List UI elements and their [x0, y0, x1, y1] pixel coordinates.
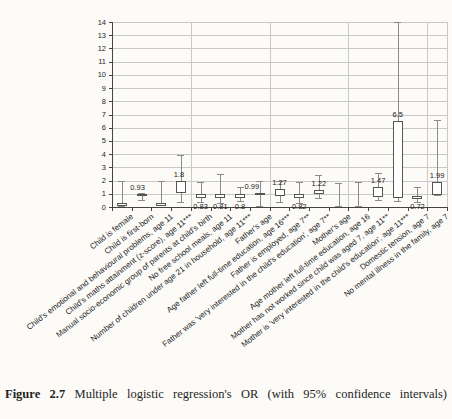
whisker-cap-bottom — [315, 198, 322, 199]
or-box — [412, 196, 422, 200]
or-box — [393, 121, 403, 198]
whisker-cap-top — [335, 183, 342, 184]
y-axis-tick-label: 9 — [92, 85, 106, 92]
y-axis-tick-label: 12 — [92, 45, 106, 52]
whisker-cap-top — [434, 120, 441, 121]
y-axis-tick-label: 11 — [92, 58, 106, 65]
or-box — [215, 194, 225, 198]
or-box — [137, 194, 147, 197]
or-value-label: 0.8 — [227, 203, 253, 211]
whisker-cap-top — [296, 182, 303, 183]
whisker — [339, 183, 340, 206]
x-axis-tick — [368, 208, 369, 211]
or-box — [196, 194, 206, 198]
x-axis-tick — [447, 208, 448, 211]
whisker — [122, 181, 123, 206]
whisker-cap-top — [118, 181, 125, 182]
or-value-label: 6.5 — [385, 111, 411, 119]
y-axis-tick-label: 14 — [92, 19, 106, 26]
whisker-cap-bottom — [335, 206, 342, 207]
or-value-label: 1.99 — [424, 172, 450, 180]
whisker-cap-bottom — [394, 201, 401, 202]
whisker — [220, 174, 221, 203]
or-box — [117, 203, 127, 206]
x-axis-tick — [112, 208, 113, 211]
y-axis-tick-label: 4 — [92, 151, 106, 158]
figure-2-7: 01234567891011121314Child is female0.93C… — [0, 0, 452, 419]
whisker-cap-top — [355, 182, 362, 183]
or-box — [314, 190, 324, 195]
figure-caption-label: Figure 2.7 — [5, 387, 65, 401]
gridline-v — [348, 22, 349, 207]
x-axis-tick — [151, 208, 152, 211]
or-box — [294, 194, 304, 198]
or-box — [255, 193, 265, 195]
figure-caption-text: Multiple logistic regression's OR (with … — [75, 387, 448, 401]
gridline-v — [191, 22, 192, 207]
or-value-label: 1.8 — [166, 171, 192, 179]
whisker-cap-top — [158, 181, 165, 182]
or-value-label: 0.99 — [239, 183, 265, 191]
whisker-cap-bottom — [434, 195, 441, 196]
y-axis-tick-label: 13 — [92, 32, 106, 39]
y-axis-tick-label: 10 — [92, 71, 106, 78]
whisker — [181, 155, 182, 202]
figure-caption: Figure 2.7 Multiple logistic regression'… — [5, 387, 447, 402]
plot-area: 01234567891011121314Child is female0.93C… — [0, 0, 452, 419]
whisker-cap-bottom — [256, 206, 263, 207]
x-axis-tick — [171, 208, 172, 211]
or-value-label: 1.27 — [267, 179, 293, 187]
x-axis-line — [112, 207, 448, 208]
or-value-label: 0.93 — [125, 184, 151, 192]
y-axis-tick-label: 8 — [92, 98, 106, 105]
or-box — [176, 181, 186, 194]
or-box — [432, 182, 442, 195]
whisker-cap-top — [394, 22, 401, 23]
x-axis-tick — [270, 208, 271, 211]
whisker-cap-bottom — [276, 202, 283, 203]
whisker — [417, 187, 418, 203]
or-box — [275, 189, 285, 196]
x-axis-tick — [348, 208, 349, 211]
whisker-cap-bottom — [177, 202, 184, 203]
whisker — [161, 181, 162, 205]
whisker-cap-bottom — [375, 200, 382, 201]
whisker-cap-top — [177, 155, 184, 156]
y-axis-line — [112, 22, 113, 208]
or-box — [235, 194, 245, 198]
y-axis-tick-label: 1 — [92, 190, 106, 197]
x-axis-tick — [388, 208, 389, 211]
or-value-label: 0.82 — [286, 203, 312, 211]
or-box — [156, 203, 166, 206]
y-axis-tick-label: 3 — [92, 164, 106, 171]
whisker-cap-bottom — [138, 200, 145, 201]
whisker-cap-top — [315, 175, 322, 176]
y-axis-tick-label: 0 — [92, 204, 106, 211]
y-axis-tick-label: 7 — [92, 111, 106, 118]
whisker-cap-top — [217, 174, 224, 175]
or-value-label: 1.22 — [306, 180, 332, 188]
y-axis-tick-label: 2 — [92, 177, 106, 184]
whisker — [358, 182, 359, 206]
whisker — [299, 182, 300, 203]
or-box — [373, 187, 383, 197]
y-axis-tick-label: 6 — [92, 124, 106, 131]
whisker-cap-top — [197, 182, 204, 183]
x-axis-tick — [132, 208, 133, 211]
whisker-cap-bottom — [355, 206, 362, 207]
y-axis-tick-label: 5 — [92, 137, 106, 144]
whisker — [201, 182, 202, 202]
or-value-label: 0.72 — [404, 203, 430, 211]
x-axis-tick — [329, 208, 330, 211]
or-value-label: 1.47 — [365, 177, 391, 185]
whisker-cap-top — [414, 187, 421, 188]
whisker-cap-top — [375, 173, 382, 174]
